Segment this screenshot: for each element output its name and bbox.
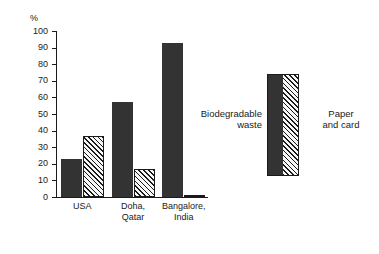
- y-tick-label: 70: [18, 76, 48, 85]
- y-tick-label: 50: [18, 110, 48, 119]
- y-tick-label: 90: [18, 43, 48, 52]
- x-axis-label: Bangalore,India: [144, 201, 223, 222]
- y-tick-label: 30: [18, 143, 48, 152]
- y-tick: [52, 97, 56, 98]
- y-tick: [52, 114, 56, 115]
- legend-label-biodegradable-waste: Biodegradable waste: [162, 108, 262, 130]
- y-axis-unit-label: %: [30, 14, 38, 23]
- y-tick: [52, 197, 56, 198]
- legend-swatch: [267, 74, 299, 176]
- y-tick: [52, 48, 56, 49]
- x-axis-line: [56, 197, 208, 198]
- legend: Biodegradable waste Paper and card: [214, 0, 379, 254]
- y-tick: [52, 164, 56, 165]
- bar: [184, 195, 205, 197]
- legend-label-line1: Biodegradable: [162, 108, 262, 119]
- y-tick: [52, 180, 56, 181]
- y-tick-label: 100: [18, 27, 48, 36]
- y-tick-label: 10: [18, 176, 48, 185]
- x-axis-label-line2: India: [144, 212, 223, 223]
- y-tick-label: 40: [18, 126, 48, 135]
- y-tick: [52, 31, 56, 32]
- y-tick: [52, 147, 56, 148]
- x-axis-label-line1: Bangalore,: [144, 201, 223, 212]
- bar: [61, 159, 82, 197]
- y-tick: [52, 131, 56, 132]
- bar: [112, 102, 133, 197]
- legend-label-paper-and-card: Paper and card: [306, 108, 376, 130]
- legend-label-line2: waste: [162, 119, 262, 130]
- legend-swatch-solid: [268, 75, 283, 175]
- y-tick: [52, 81, 56, 82]
- chart-figure: % 0102030405060708090100 USADoha,QatarBa…: [0, 0, 379, 254]
- y-tick-label: 20: [18, 159, 48, 168]
- y-tick: [52, 64, 56, 65]
- bar: [83, 136, 104, 197]
- y-tick-label: 80: [18, 60, 48, 69]
- legend-swatch-hatched: [283, 75, 298, 175]
- legend-label-line2: and card: [306, 119, 376, 130]
- bar: [134, 169, 155, 197]
- y-tick-label: 60: [18, 93, 48, 102]
- legend-label-line1: Paper: [306, 108, 376, 119]
